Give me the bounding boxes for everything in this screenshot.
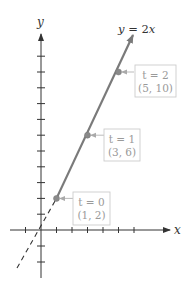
callout-t0-coords: (1, 2) bbox=[77, 209, 105, 221]
dashed-extension bbox=[17, 198, 57, 268]
callout-t0: t = 0 (1, 2) bbox=[60, 192, 110, 225]
line-equation-label: y = 2x bbox=[117, 22, 156, 36]
callout-t0-param: t = 0 bbox=[78, 196, 104, 208]
point-t2 bbox=[116, 69, 122, 75]
callout-t1-coords: (3, 6) bbox=[108, 146, 136, 158]
callout-t2: t = 2 (5, 10) bbox=[122, 65, 176, 97]
callout-t2-coords: (5, 10) bbox=[138, 82, 173, 94]
callout-t2-param: t = 2 bbox=[142, 69, 168, 81]
point-t1 bbox=[85, 132, 91, 138]
callout-t1-param: t = 1 bbox=[109, 133, 135, 145]
y-axis-label: y bbox=[36, 15, 44, 29]
x-axis-label: x bbox=[174, 223, 181, 237]
parametric-line-figure: x y y = 2x t = 2 (5, 10) t = 1 (3, 6) t … bbox=[0, 0, 192, 294]
point-t0 bbox=[54, 195, 60, 201]
callout-t1: t = 1 (3, 6) bbox=[91, 129, 140, 161]
solid-ray bbox=[57, 35, 134, 198]
